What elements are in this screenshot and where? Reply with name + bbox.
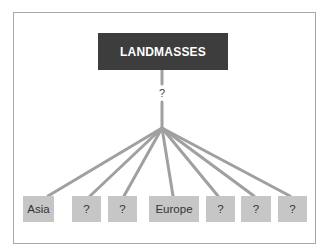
- leaf-label: ?: [217, 203, 223, 215]
- leaf-label: ?: [119, 203, 125, 215]
- leaf-label: Europe: [155, 203, 192, 215]
- leaf-label: Asia: [27, 203, 49, 215]
- root-node-label: LANDMASSES: [120, 45, 206, 59]
- leaf-node-europe: Europe: [149, 196, 199, 222]
- leaf-label: ?: [289, 203, 295, 215]
- leaf-node-asia: Asia: [23, 196, 54, 222]
- leaf-node-unknown-1: ?: [72, 196, 101, 222]
- link-leaf-7: [162, 128, 290, 196]
- leaf-node-unknown-4: ?: [241, 196, 271, 222]
- leaf-label: ?: [253, 203, 259, 215]
- relation-label: ?: [155, 86, 169, 100]
- leaf-node-unknown-2: ?: [108, 196, 137, 222]
- link-asia: [48, 128, 162, 196]
- leaf-label: ?: [83, 203, 89, 215]
- leaf-node-unknown-3: ?: [206, 196, 235, 222]
- root-node-landmasses: LANDMASSES: [98, 33, 228, 70]
- link-leaf-2: [90, 128, 162, 196]
- leaf-node-unknown-5: ?: [278, 196, 307, 222]
